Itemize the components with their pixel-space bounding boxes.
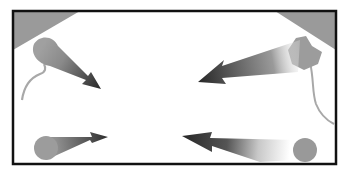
diagram-canvas [0,0,352,171]
arrow-top-left [22,37,101,100]
arrow-top-right [198,36,334,124]
arrow-bottom-left [34,132,108,160]
arrow-bottom-right [182,132,317,162]
